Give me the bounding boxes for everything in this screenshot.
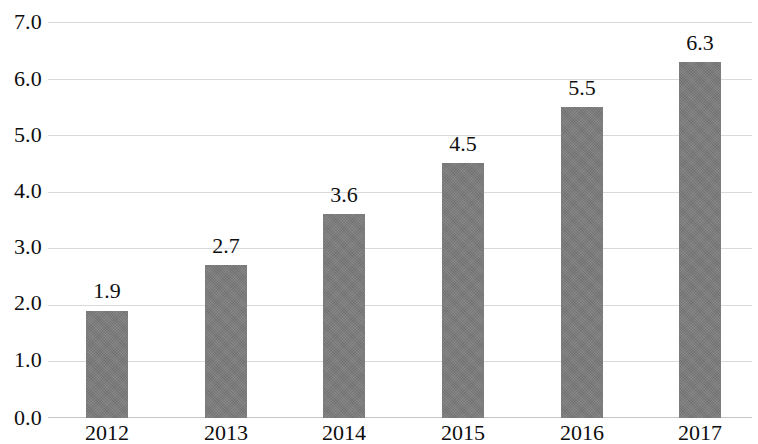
y-axis-tick-label: 6.0 xyxy=(0,68,42,90)
bar-value-label: 5.5 xyxy=(568,77,596,99)
x-axis-tick-label: 2014 xyxy=(322,421,366,444)
bar-2013[interactable] xyxy=(205,265,247,418)
x-axis-tick-label: 2013 xyxy=(204,421,248,444)
gridline-2 xyxy=(48,305,752,306)
bar-chart: 7.0 6.0 5.0 4.0 3.0 2.0 1.0 0.0 1.9 2.7 … xyxy=(0,0,758,444)
bar-group: 3.6 xyxy=(323,22,365,418)
bar-2014[interactable] xyxy=(323,214,365,418)
y-axis-tick-label: 5.0 xyxy=(0,124,42,146)
bar-group: 4.5 xyxy=(442,22,484,418)
gridline-7 xyxy=(48,22,752,23)
bar-value-label: 3.6 xyxy=(330,184,358,206)
gridline-5 xyxy=(48,135,752,136)
bar-group: 1.9 xyxy=(86,22,128,418)
bar-2016[interactable] xyxy=(561,107,603,418)
bar-2017[interactable] xyxy=(679,62,721,418)
bar-value-label: 1.9 xyxy=(93,280,121,302)
bar-group: 6.3 xyxy=(679,22,721,418)
x-axis-tick-label: 2017 xyxy=(678,421,722,444)
y-axis-tick-label: 0.0 xyxy=(0,407,42,429)
y-axis-tick-label: 2.0 xyxy=(0,292,42,314)
x-axis-tick-label: 2012 xyxy=(85,421,129,444)
y-axis-tick-label: 3.0 xyxy=(0,236,42,258)
plot-area: 1.9 2.7 3.6 4.5 5.5 6.3 xyxy=(48,22,752,418)
bar-value-label: 6.3 xyxy=(686,32,714,54)
bar-value-label: 2.7 xyxy=(212,235,240,257)
bar-group: 2.7 xyxy=(205,22,247,418)
gridline-0-baseline xyxy=(48,417,752,418)
y-axis: 7.0 6.0 5.0 4.0 3.0 2.0 1.0 0.0 xyxy=(0,0,42,444)
x-axis-tick-label: 2016 xyxy=(560,421,604,444)
bar-2012[interactable] xyxy=(86,311,128,419)
gridline-3 xyxy=(48,248,752,249)
gridline-4 xyxy=(48,192,752,193)
bar-group: 5.5 xyxy=(561,22,603,418)
bar-value-label: 4.5 xyxy=(449,133,477,155)
gridline-1 xyxy=(48,361,752,362)
gridline-6 xyxy=(48,79,752,80)
y-axis-tick-label: 1.0 xyxy=(0,349,42,371)
bar-2015[interactable] xyxy=(442,163,484,418)
y-axis-tick-label: 4.0 xyxy=(0,180,42,202)
x-axis: 2012 2013 2014 2015 2016 2017 xyxy=(48,421,752,444)
x-axis-tick-label: 2015 xyxy=(441,421,485,444)
y-axis-tick-label: 7.0 xyxy=(0,11,42,33)
